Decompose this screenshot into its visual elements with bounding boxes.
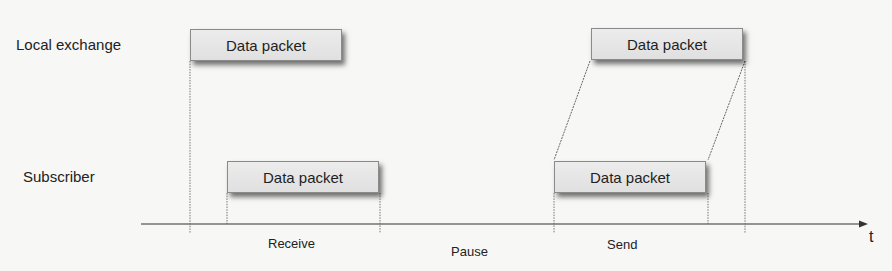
propagation-line-end bbox=[708, 61, 745, 160]
packet-subscriber-send: Data packet bbox=[554, 161, 706, 193]
phase-label-send: Send bbox=[607, 237, 637, 252]
packet-label: Data packet bbox=[226, 37, 306, 54]
packet-label: Data packet bbox=[590, 169, 670, 186]
propagation-line-start bbox=[554, 61, 590, 160]
packet-label: Data packet bbox=[627, 36, 707, 53]
ping-pong-timing-diagram: Local exchange Subscriber Data packet Da… bbox=[0, 0, 892, 271]
packet-local-exchange-receive: Data packet bbox=[190, 29, 342, 61]
time-axis-label: t bbox=[869, 228, 873, 246]
lane-label-local-exchange: Local exchange bbox=[16, 36, 121, 53]
time-axis-arrowhead-icon bbox=[859, 221, 868, 228]
phase-label-receive: Receive bbox=[268, 236, 315, 251]
phase-label-pause: Pause bbox=[451, 244, 488, 259]
packet-subscriber-receive: Data packet bbox=[227, 161, 379, 193]
packet-local-exchange-send: Data packet bbox=[591, 28, 743, 60]
packet-label: Data packet bbox=[263, 169, 343, 186]
lane-label-subscriber: Subscriber bbox=[23, 168, 95, 185]
diagram-lines bbox=[0, 0, 892, 271]
